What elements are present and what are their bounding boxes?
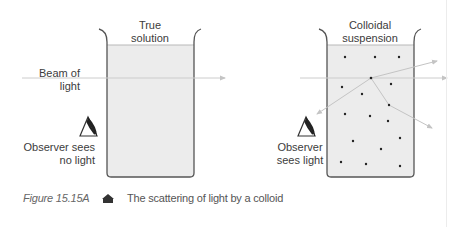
title-colloidal-suspension: Colloidal suspension (330, 19, 410, 45)
figure-caption: Figure 15.15A The scattering of light by… (23, 192, 283, 205)
eye-icon (80, 117, 97, 136)
observer-label-sees-light: Observer sees light (270, 141, 330, 167)
page-edge-divider (446, 0, 447, 227)
observer-label-line: no light (0, 154, 95, 167)
eye-icon (298, 117, 315, 136)
liquid-true-solution (107, 45, 194, 177)
beaker-true-solution (99, 29, 201, 177)
observer-label-line: sees light (270, 154, 330, 167)
caption-text: The scattering of light by a colloid (127, 192, 283, 204)
colloid-scattering-figure: True solution Beam of light Observer see… (0, 0, 450, 227)
title-line: Colloidal (330, 19, 410, 32)
beam-label: Beam of light (20, 67, 80, 93)
title-line: solution (120, 32, 180, 45)
beam-label-line: light (20, 80, 80, 93)
title-true-solution: True solution (120, 19, 180, 45)
observer-label-line: Observer sees (0, 141, 95, 154)
title-line: suspension (330, 32, 410, 45)
beam-label-line: Beam of (20, 67, 80, 80)
observer-label-line: Observer (270, 141, 330, 154)
observer-label-no-light: Observer sees no light (0, 141, 95, 167)
caption-marker-icon (102, 193, 114, 205)
title-line: True (120, 19, 180, 32)
figure-number: Figure 15.15A (23, 192, 90, 204)
